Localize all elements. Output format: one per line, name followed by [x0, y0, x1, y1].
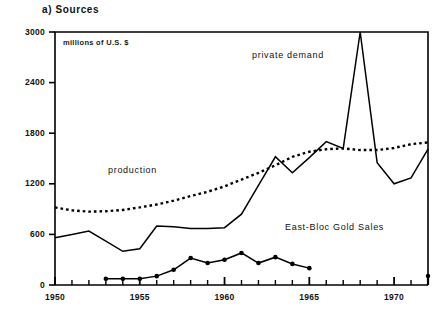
y-axis-tick-label: 1200	[0, 178, 45, 188]
series-marker-2	[188, 256, 193, 261]
series-marker-2	[256, 261, 261, 266]
chart-title: a) Sources	[42, 4, 99, 15]
y-axis-tick-label: 600	[0, 229, 45, 239]
series-marker-2	[205, 261, 210, 266]
y-axis-tick-label: 1800	[0, 128, 45, 138]
series-marker-2	[273, 255, 278, 260]
series-marker-2	[239, 251, 244, 256]
series-marker-2	[154, 274, 159, 279]
x-axis-tick-label: 1970	[374, 292, 414, 302]
series-marker-2	[121, 276, 126, 281]
x-axis-tick-label: 1960	[205, 292, 245, 302]
x-axis-tick-label: 1955	[120, 292, 160, 302]
series-marker-2	[171, 268, 176, 273]
series-marker-2	[222, 257, 227, 262]
units-note: millions of U.S. $	[63, 38, 129, 47]
series-line-1	[55, 142, 428, 211]
y-axis-tick-label: 3000	[0, 27, 45, 37]
series-label-private-demand: private demand	[252, 50, 324, 60]
series-group	[55, 32, 430, 285]
y-axis-tick-label: 2400	[0, 77, 45, 87]
x-axis-tick-label: 1950	[35, 292, 75, 302]
series-marker-2	[307, 266, 312, 271]
plot-frame	[55, 32, 428, 285]
series-marker-2	[104, 276, 109, 281]
y-axis-tick-label: 0	[0, 280, 45, 290]
line-chart-plot	[0, 0, 436, 322]
series-label-production: production	[108, 165, 157, 175]
series-marker-2	[290, 262, 295, 267]
series-line-2	[106, 253, 309, 279]
figure-container: a) Sources millions of U.S. $ private de…	[0, 0, 436, 322]
axes-group	[49, 32, 428, 285]
series-marker-2	[137, 276, 142, 281]
series-label-east-bloc-gold-sales: East-Bloc Gold Sales	[285, 222, 384, 232]
axis-end-marker-point	[426, 274, 430, 278]
series-line-0	[55, 32, 428, 251]
x-axis-tick-label: 1965	[289, 292, 329, 302]
